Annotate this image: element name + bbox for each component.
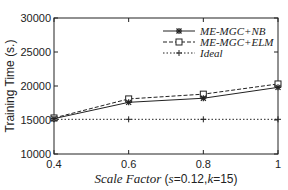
asterisk-marker	[275, 84, 281, 90]
series-ideal	[51, 116, 281, 122]
plus-marker	[176, 50, 182, 56]
y-tick-label: 25000	[20, 46, 51, 58]
legend: ME-MGC+NBME-MGC+ELMIdeal	[163, 25, 274, 59]
asterisk-marker	[200, 95, 206, 101]
y-tick-label: 20000	[20, 80, 51, 92]
y-axis-label: Training Time (s.)	[3, 40, 17, 133]
plus-marker	[200, 116, 206, 122]
y-tick-label: 15000	[20, 114, 51, 126]
y-tick-label: 30000	[20, 12, 51, 24]
plus-marker	[126, 116, 132, 122]
x-tick-label: 1	[275, 158, 281, 170]
legend-label: Ideal	[199, 47, 223, 59]
square-marker	[176, 39, 182, 45]
legend-item: Ideal	[163, 47, 223, 59]
x-tick-label: 0.6	[121, 158, 136, 170]
plus-marker	[275, 116, 281, 122]
series-me-mgc-nb	[51, 84, 281, 121]
asterisk-marker	[176, 28, 182, 34]
x-tick-label: 0.4	[46, 158, 61, 170]
data-series	[51, 81, 281, 122]
x-axis-label: Scale Factor (s=0.12,k=15)	[94, 171, 237, 186]
asterisk-marker	[126, 99, 132, 105]
training-time-chart: 1000015000200002500030000 0.40.60.81 ME-…	[0, 0, 288, 190]
asterisk-marker	[51, 116, 57, 122]
series-me-mgc-elm	[51, 81, 281, 121]
x-tick-label: 0.8	[196, 158, 211, 170]
